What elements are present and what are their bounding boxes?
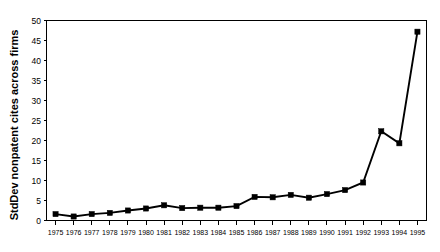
- x-tick-label: 1983: [193, 229, 209, 236]
- y-tick-label: 15: [32, 156, 42, 166]
- data-point-marker: [162, 203, 167, 208]
- x-tick-label: 1988: [283, 229, 299, 236]
- x-tick-label: 1991: [337, 229, 353, 236]
- data-point-marker: [342, 188, 347, 193]
- data-point-marker: [397, 141, 402, 146]
- data-point-marker: [252, 194, 257, 199]
- y-tick-label: 25: [32, 116, 42, 126]
- data-point-marker: [361, 180, 366, 185]
- x-tick-label: 1987: [265, 229, 281, 236]
- data-point-marker: [107, 210, 112, 215]
- chart-background: [0, 0, 440, 252]
- y-axis-title: StdDev nonpatent cites across firms: [8, 30, 20, 221]
- y-tick-label: 40: [32, 56, 42, 66]
- x-tick-label: 1985: [229, 229, 245, 236]
- x-tick-label: 1978: [102, 229, 118, 236]
- x-tick-label: 1976: [66, 229, 82, 236]
- x-axis-tick-labels: 1975197619771978197919801981198219831984…: [48, 229, 426, 236]
- data-point-marker: [324, 192, 329, 197]
- x-axis-tick-marks: [56, 221, 418, 225]
- data-point-marker: [53, 212, 58, 217]
- chart-canvas: StdDev nonpatent cites across firms 0510…: [0, 0, 440, 252]
- y-tick-label: 0: [36, 216, 41, 226]
- x-tick-label: 1992: [355, 229, 371, 236]
- x-tick-label: 1984: [211, 229, 227, 236]
- x-tick-label: 1995: [410, 229, 426, 236]
- x-tick-label: 1981: [156, 229, 172, 236]
- y-tick-label: 45: [32, 36, 42, 46]
- x-tick-label: 1975: [48, 229, 64, 236]
- data-point-marker: [234, 204, 239, 209]
- data-point-marker: [216, 205, 221, 210]
- x-tick-label: 1980: [138, 229, 154, 236]
- data-point-marker: [89, 212, 94, 217]
- x-tick-label: 1994: [392, 229, 408, 236]
- data-point-marker: [270, 195, 275, 200]
- y-tick-label: 5: [36, 196, 41, 206]
- data-point-marker: [306, 195, 311, 200]
- data-point-marker: [71, 214, 76, 219]
- line-chart-figure: StdDev nonpatent cites across firms 0510…: [0, 0, 440, 252]
- x-tick-label: 1986: [247, 229, 263, 236]
- x-tick-label: 1979: [120, 229, 136, 236]
- y-tick-label: 10: [32, 176, 42, 186]
- x-tick-label: 1977: [84, 229, 100, 236]
- data-point-marker: [415, 29, 420, 34]
- y-tick-label: 35: [32, 76, 42, 86]
- data-point-marker: [288, 192, 293, 197]
- data-point-marker: [125, 208, 130, 213]
- x-tick-label: 1989: [301, 229, 317, 236]
- data-point-marker: [198, 205, 203, 210]
- x-tick-label: 1993: [373, 229, 389, 236]
- data-point-marker: [379, 129, 384, 134]
- y-tick-label: 20: [32, 136, 42, 146]
- x-tick-label: 1990: [319, 229, 335, 236]
- y-tick-label: 50: [32, 16, 42, 26]
- x-tick-label: 1982: [174, 229, 190, 236]
- y-tick-label: 30: [32, 96, 42, 106]
- data-point-marker: [143, 206, 148, 211]
- data-point-marker: [180, 206, 185, 211]
- chart-screenshot: StdDev nonpatent cites across firms 0510…: [0, 0, 440, 252]
